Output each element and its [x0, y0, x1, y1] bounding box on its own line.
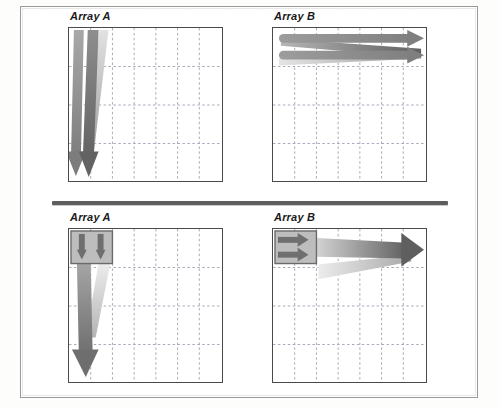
- arrow-group-bottom-right: [273, 229, 426, 382]
- arrow-group-top-right: [273, 28, 426, 181]
- figure-page: Array A: [0, 0, 500, 407]
- panel-label-top-right: Array B: [274, 10, 315, 22]
- arrow-group-bottom-left: [69, 229, 222, 382]
- row-divider: [52, 201, 448, 205]
- source-box: [275, 231, 316, 264]
- plot-area-bottom-left: [68, 228, 223, 383]
- plot-area-top-left: [68, 27, 223, 182]
- plot-area-bottom-right: [272, 228, 427, 383]
- panel-label-bottom-right: Array B: [274, 211, 315, 223]
- arrow-group-top-left: [69, 28, 222, 181]
- panel-label-bottom-left: Array A: [70, 211, 111, 223]
- source-box: [71, 231, 112, 264]
- plot-area-top-right: [272, 27, 427, 182]
- panel-label-top-left: Array A: [70, 10, 111, 22]
